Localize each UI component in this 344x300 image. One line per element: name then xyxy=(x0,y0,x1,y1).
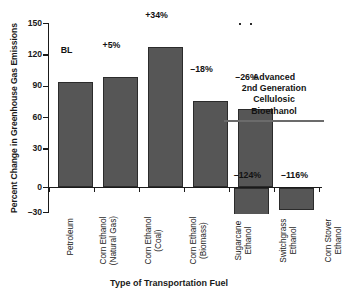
y-axis-tick-labels: 150 120 90 60 30 0 –30 xyxy=(10,0,42,300)
x-axis-tick xyxy=(139,187,140,192)
y-tick-label: 30 xyxy=(16,143,42,153)
cat-line: Corn Ethanol xyxy=(189,203,199,279)
annotation-advanced-cellulosic: Advanced 2nd Generation Cellulosic Bioet… xyxy=(222,72,326,117)
bar-petroleum xyxy=(58,82,93,186)
cat-line: Corn Ethanol xyxy=(99,203,109,279)
cat-line: Ethanol xyxy=(289,203,299,279)
cat-line: (Natural Gas) xyxy=(109,203,119,279)
cat-line: Corn Stover xyxy=(324,203,334,279)
cat-line: Switchgrass xyxy=(279,203,289,279)
y-axis-tick xyxy=(43,23,48,24)
data-label-corn-ethanol-coal: +34% xyxy=(136,10,177,20)
y-axis-tick xyxy=(43,148,48,149)
cat-line: (Coal) xyxy=(154,203,164,279)
y-tick-label: –30 xyxy=(16,207,42,217)
x-axis-tick xyxy=(49,187,50,192)
x-tick-label-corn-ethanol-biomass: Corn Ethanol (Biomass) xyxy=(189,203,208,279)
bar-corn-ethanol-coal xyxy=(148,47,183,187)
cat-line: Ethanol xyxy=(244,203,254,279)
y-tick-label: 150 xyxy=(16,18,42,28)
annotation-line: Bioethanol xyxy=(222,106,326,117)
x-axis-tick xyxy=(184,187,185,192)
cat-line: Petroleum xyxy=(66,199,76,275)
y-axis-tick xyxy=(43,117,48,118)
cat-line: Ethanol xyxy=(334,203,344,279)
cat-line: Corn Ethanol xyxy=(144,203,154,279)
x-axis-tick xyxy=(319,187,320,192)
x-tick-label-sugarcane-ethanol: Sugarcane Ethanol xyxy=(234,203,253,279)
x-tick-label-switchgrass-ethanol: Switchgrass Ethanol xyxy=(279,203,298,279)
x-axis-title: Type of Transportation Fuel xyxy=(54,278,284,288)
cat-line: (Biomass) xyxy=(199,203,209,279)
y-axis-tick xyxy=(43,212,48,213)
data-label-corn-ethanol-natural-gas: +5% xyxy=(91,40,132,50)
y-tick-label: 0 xyxy=(16,182,42,192)
bar-corn-ethanol-natural-gas xyxy=(103,77,138,187)
annotation-underline xyxy=(224,120,324,122)
cat-line: Sugarcane xyxy=(234,203,244,279)
x-tick-label-corn-stover-ethanol: Corn Stover Ethanol xyxy=(324,203,343,279)
x-axis-tick xyxy=(229,187,230,192)
y-tick-label: 120 xyxy=(16,49,42,59)
x-axis-tick xyxy=(94,187,95,192)
data-label-corn-ethanol-biomass: –18% xyxy=(181,64,222,74)
y-tick-label: 60 xyxy=(16,112,42,122)
plot-area xyxy=(49,23,322,213)
annotation-line: 2nd Generation xyxy=(222,83,326,94)
annotation-line: Cellulosic xyxy=(222,94,326,105)
bar-spacer xyxy=(250,23,252,25)
x-axis-tick xyxy=(274,187,275,192)
bar-spacer-2 xyxy=(239,23,241,25)
x-tick-label-corn-ethanol-coal: Corn Ethanol (Coal) xyxy=(144,203,163,279)
y-axis-tick xyxy=(43,86,48,87)
data-label-corn-stover-ethanol: –116% xyxy=(270,170,319,180)
data-label-petroleum: BL xyxy=(46,45,87,55)
data-label-switchgrass-ethanol: –124% xyxy=(223,170,272,180)
x-tick-label-corn-ethanol-natural-gas: Corn Ethanol (Natural Gas) xyxy=(99,203,118,279)
x-tick-label-petroleum: Petroleum xyxy=(66,199,76,275)
y-tick-label: 90 xyxy=(16,80,42,90)
annotation-line: Advanced xyxy=(222,72,326,83)
